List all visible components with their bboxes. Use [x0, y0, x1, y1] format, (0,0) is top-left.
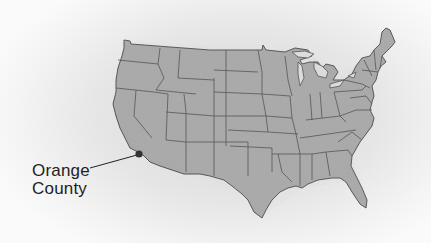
orange-county-marker	[135, 150, 142, 157]
label-line-1: Orange	[32, 162, 90, 180]
orange-county-label: Orange County	[32, 162, 90, 198]
us-map	[0, 0, 431, 243]
label-line-2: County	[32, 180, 90, 198]
callout-leader-line	[90, 155, 137, 168]
